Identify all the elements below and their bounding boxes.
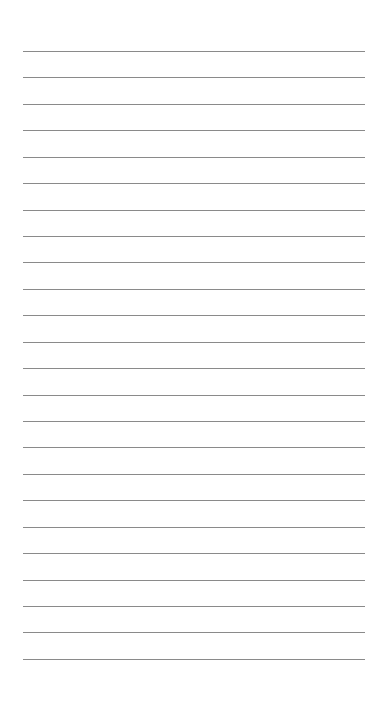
ruled-line [23, 447, 365, 448]
ruled-line [23, 157, 365, 158]
ruled-line [23, 130, 365, 131]
ruled-line [23, 368, 365, 369]
lined-page [0, 0, 383, 704]
ruled-line [23, 210, 365, 211]
ruled-line [23, 553, 365, 554]
ruled-line [23, 183, 365, 184]
ruled-line [23, 289, 365, 290]
ruled-line [23, 262, 365, 263]
ruled-line [23, 500, 365, 501]
ruled-line [23, 474, 365, 475]
ruled-line [23, 236, 365, 237]
ruled-line [23, 104, 365, 105]
ruled-line [23, 315, 365, 316]
ruled-line [23, 395, 365, 396]
ruled-line [23, 421, 365, 422]
ruled-line [23, 77, 365, 78]
ruled-line [23, 527, 365, 528]
ruled-line [23, 659, 365, 660]
ruled-line [23, 606, 365, 607]
ruled-line [23, 51, 365, 52]
ruled-line [23, 632, 365, 633]
ruled-line [23, 580, 365, 581]
ruled-line [23, 342, 365, 343]
